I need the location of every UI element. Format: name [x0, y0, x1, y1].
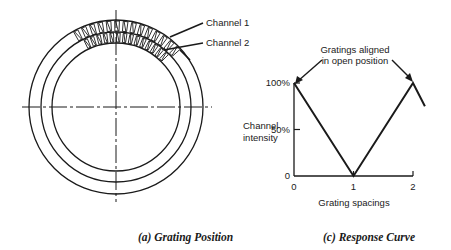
grating-hatch — [107, 21, 111, 31]
ring-leader — [180, 50, 190, 60]
channel-1-label: Channel 1 — [206, 17, 249, 28]
x-tick-label: 1 — [351, 181, 356, 192]
annotation-arrow-left — [298, 60, 322, 81]
y-tick-label: 0 — [285, 170, 290, 181]
figure: Channel 1 Channel 2 050%100% 012 Channel… — [0, 0, 451, 250]
annotation-arrow-right — [392, 60, 410, 78]
y-axis-label-line-1: Channel — [243, 120, 278, 131]
response-chart: 050%100% 012 Channel intensity Grating s… — [243, 44, 425, 208]
channel-1-leader — [170, 23, 203, 37]
grating-hatch — [133, 23, 134, 33]
channel-1-grating — [74, 21, 180, 56]
x-axis-label: Grating spacings — [318, 197, 390, 208]
response-line — [294, 83, 425, 176]
caption-grating-position: (a) Grating Position — [138, 231, 233, 244]
grating-hatch — [137, 36, 138, 45]
x-tick-label: 0 — [291, 181, 296, 192]
y-tick-label: 100% — [266, 77, 291, 88]
caption-response-curve: (c) Response Curve — [323, 231, 415, 244]
channel-2-label: Channel 2 — [206, 37, 249, 48]
x-tick-label: 2 — [410, 181, 415, 192]
annotation-line-1: Gratings aligned — [320, 44, 389, 55]
grating-hatch — [124, 21, 126, 31]
grating-hatch — [117, 33, 119, 42]
y-axis-label-line-2: intensity — [243, 132, 278, 143]
grating-hatch — [124, 33, 125, 42]
grating-hatch — [110, 33, 113, 42]
grating-diagram — [22, 10, 212, 202]
annotation-line-2: in open position — [322, 55, 389, 66]
